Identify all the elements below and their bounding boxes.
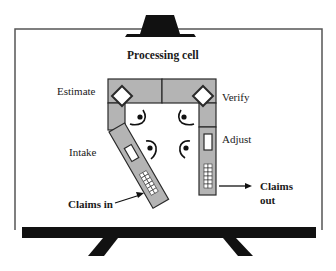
claims-in-label: Claims in: [68, 198, 113, 210]
station-label-estimate: Estimate: [57, 85, 96, 97]
claims-in-arrow-icon: [115, 192, 144, 203]
diagram-title: Processing cell: [127, 49, 199, 62]
worker-adjust-icon: [180, 141, 190, 158]
processing-cell-diagram: [0, 0, 336, 271]
worker-estimate-icon: [130, 110, 145, 125]
station-label-intake: Intake: [69, 146, 96, 158]
board-tray: [22, 227, 316, 238]
worker-intake-icon: [146, 141, 156, 159]
worker-verify-icon: [179, 110, 194, 125]
station-label-verify: Verify: [222, 91, 250, 103]
adjust-station: [199, 127, 216, 195]
board-top-clip: [127, 15, 194, 36]
claims-out-label-line2: out: [260, 194, 275, 206]
stand-leg-right: [223, 238, 253, 256]
stand-leg-left: [88, 238, 118, 256]
claims-out-label-line1: Claims: [260, 180, 293, 192]
station-label-adjust: Adjust: [222, 133, 251, 145]
claims-out-arrow-icon: [219, 183, 252, 189]
